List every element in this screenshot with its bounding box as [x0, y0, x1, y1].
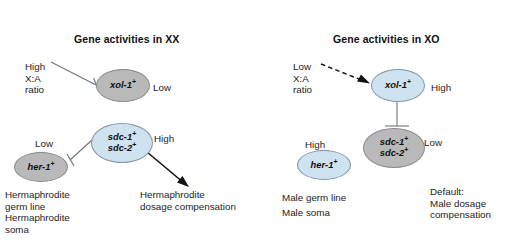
xo-node-sdc: sdc-1+ sdc-2+ — [363, 128, 425, 168]
panel-title-xx: Gene activities in XX — [74, 33, 179, 45]
xo-node-sdc1-superscript: + — [404, 135, 408, 142]
xx-node-sdc: sdc-1+ sdc-2+ — [91, 123, 153, 163]
xx-node-xol1-superscript: + — [132, 78, 136, 85]
xo-sdc-level: Low — [424, 137, 442, 149]
xx-node-sdc2-gene: sdc-2+ — [108, 143, 137, 154]
xx-node-her1-gene: her-1+ — [27, 162, 54, 173]
gene-activities-figure: hermaphrodite dosage compensation (activ… — [0, 0, 517, 251]
xo-node-her1: her-1+ — [297, 150, 351, 180]
xo-node-her1-gene: her-1+ — [310, 160, 337, 171]
xx-ratio-inhibits-xol1 — [51, 62, 99, 91]
panel-title-xo: Gene activities in XO — [333, 33, 440, 45]
xo-xol1-inhibits-sdc — [385, 102, 409, 126]
xx-node-sdc2-superscript: + — [132, 141, 136, 148]
xx-sdc-inhibits-her1 — [67, 140, 92, 166]
xx-node-xol1: xol-1+ — [96, 69, 150, 102]
xx-node-her1: her-1+ — [14, 152, 68, 182]
xx-outcome-soma: Hermaphrodite soma — [5, 212, 70, 235]
xo-ratio-label: Low X:A ratio — [293, 61, 312, 96]
xo-node-sdc2-gene: sdc-2+ — [380, 148, 409, 159]
xx-sdc-activates-dosage — [147, 152, 189, 187]
xo-xol1-level: High — [431, 82, 451, 94]
xo-her1-level: High — [305, 139, 325, 151]
xx-sdc-level: High — [154, 133, 174, 145]
xo-outcome-dosage-compensation: Default: Male dosage compensation — [430, 186, 491, 221]
xo-node-her1-superscript: + — [333, 157, 337, 164]
xx-her1-level: Low — [35, 138, 53, 150]
xx-node-xol1-gene: xol-1+ — [110, 80, 136, 91]
xx-outcome-dosage-compensation: Hermaphrodite dosage compensation — [140, 189, 236, 212]
xo-node-xol1-superscript: + — [407, 78, 411, 85]
xx-outcome-germ-line: Hermaphrodite germ line — [5, 189, 70, 212]
xo-node-sdc2-superscript: + — [404, 146, 408, 153]
xo-ratio-activates-xol1 — [321, 64, 370, 84]
xo-outcome-soma: Male soma — [282, 207, 330, 219]
xo-node-xol1: xol-1+ — [371, 69, 425, 102]
xx-xol1-level: Low — [153, 82, 171, 94]
xo-node-xol1-gene: xol-1+ — [385, 80, 411, 91]
xo-outcome-germ-line: Male germ line — [282, 192, 346, 204]
xx-ratio-label: High X:A ratio — [25, 61, 45, 96]
xx-node-her1-superscript: + — [50, 159, 54, 166]
xx-node-sdc1-superscript: + — [132, 130, 136, 137]
